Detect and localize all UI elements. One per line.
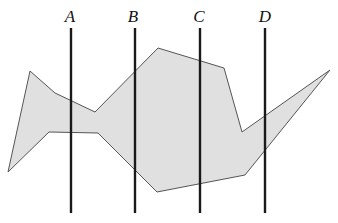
figure-svg bbox=[0, 0, 338, 223]
line-label-b: B bbox=[128, 8, 138, 25]
line-label-d: D bbox=[259, 8, 271, 25]
line-label-c: C bbox=[193, 8, 204, 25]
line-label-a: A bbox=[65, 8, 75, 25]
figure-canvas: ABCD bbox=[0, 0, 338, 223]
shaded-region bbox=[8, 48, 330, 192]
